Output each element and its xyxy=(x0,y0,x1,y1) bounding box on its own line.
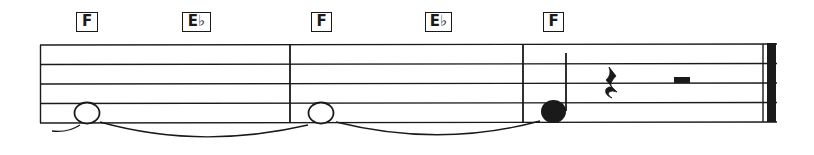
quarter-note-head xyxy=(541,100,566,123)
tie-incoming xyxy=(52,125,80,131)
staff-lines xyxy=(40,44,777,123)
quarter-rest xyxy=(606,67,617,98)
music-staff xyxy=(0,0,814,155)
staff-line-1 xyxy=(40,44,777,45)
whole-note-m1 xyxy=(75,103,100,124)
tie-m1-to-m2 xyxy=(100,122,308,137)
staff-line-3 xyxy=(40,83,777,84)
staff-line-5 xyxy=(40,122,777,123)
staff-line-4 xyxy=(40,103,777,104)
final-barline-thick xyxy=(767,43,776,122)
half-rest xyxy=(674,77,690,83)
whole-note-m2 xyxy=(309,103,334,124)
staff-line-2 xyxy=(40,64,777,65)
